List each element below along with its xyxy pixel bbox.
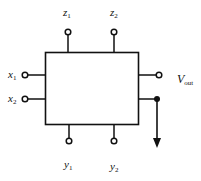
terminal-vout: Vout bbox=[138, 72, 193, 87]
label-z1: z1 bbox=[62, 6, 71, 20]
terminal-y1: y1 bbox=[63, 125, 73, 172]
terminal-x2: x2 bbox=[7, 92, 45, 106]
block-diagram: z1 z2 x1 x2 Vout y1 y2 bbox=[0, 0, 201, 181]
label-y1: y1 bbox=[63, 158, 73, 172]
open-terminal-icon bbox=[66, 138, 72, 144]
label-x2: x2 bbox=[7, 92, 17, 106]
label-x1: x1 bbox=[7, 68, 17, 82]
open-terminal-icon bbox=[22, 72, 28, 78]
terminal-y2: y2 bbox=[109, 125, 119, 174]
terminal-output-flow bbox=[138, 96, 161, 148]
open-terminal-icon bbox=[111, 138, 117, 144]
system-block bbox=[46, 53, 139, 125]
open-terminal-icon bbox=[111, 29, 117, 35]
label-vout: Vout bbox=[177, 72, 193, 87]
terminal-x1: x1 bbox=[7, 68, 45, 82]
open-terminal-icon bbox=[22, 96, 28, 102]
terminal-z1: z1 bbox=[62, 6, 71, 52]
label-y2: y2 bbox=[109, 160, 119, 174]
arrow-down-icon bbox=[153, 138, 161, 148]
label-z2: z2 bbox=[109, 6, 118, 20]
terminal-z2: z2 bbox=[109, 6, 118, 52]
open-terminal-icon bbox=[65, 29, 71, 35]
open-terminal-icon bbox=[156, 72, 162, 78]
